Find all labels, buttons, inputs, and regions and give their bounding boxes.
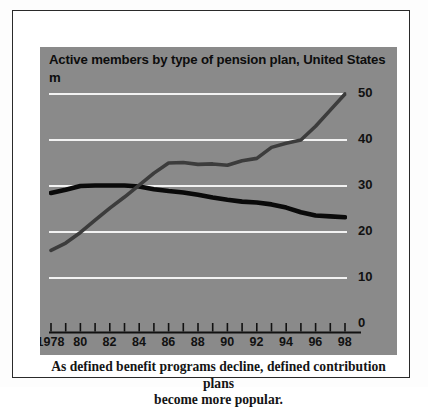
- x-tick-label-84: 84: [132, 335, 146, 349]
- x-axis-ticks: [51, 323, 345, 332]
- x-tick-label-86: 86: [161, 335, 175, 349]
- x-tick-label-92: 92: [250, 335, 264, 349]
- caption-line-2: become more popular.: [154, 392, 283, 407]
- x-tick-label-94: 94: [279, 335, 293, 349]
- chart-plot-svg: [49, 91, 347, 321]
- series-line-defined-contribution: [51, 94, 345, 250]
- figure-caption: As defined benefit programs decline, def…: [40, 359, 397, 409]
- y-tick-label-50: 50: [358, 86, 372, 99]
- x-axis: [49, 321, 369, 335]
- plot-area: [49, 91, 347, 321]
- y-tick-label-10: 10: [358, 270, 372, 283]
- x-tick-label-96: 96: [308, 335, 322, 349]
- x-tick-label-90: 90: [220, 335, 234, 349]
- x-tick-label-1978: 1978: [40, 335, 64, 349]
- chart-title: Active members by type of pension plan, …: [49, 52, 385, 67]
- x-tick-label-98: 98: [338, 335, 352, 349]
- y-axis-unit-label: m: [49, 70, 61, 85]
- x-tick-label-82: 82: [103, 335, 117, 349]
- y-tick-label-30: 30: [358, 178, 372, 191]
- x-tick-label-80: 80: [73, 335, 87, 349]
- caption-line-1: As defined benefit programs decline, def…: [51, 359, 386, 391]
- x-tick-label-88: 88: [191, 335, 205, 349]
- series-line-defined-benefit: [51, 186, 345, 218]
- y-tick-label-40: 40: [358, 132, 372, 145]
- chart-panel: Active members by type of pension plan, …: [40, 47, 397, 355]
- y-tick-label-20: 20: [358, 224, 372, 237]
- figure-frame: Active members by type of pension plan, …: [12, 10, 410, 378]
- series-lines: [51, 94, 345, 250]
